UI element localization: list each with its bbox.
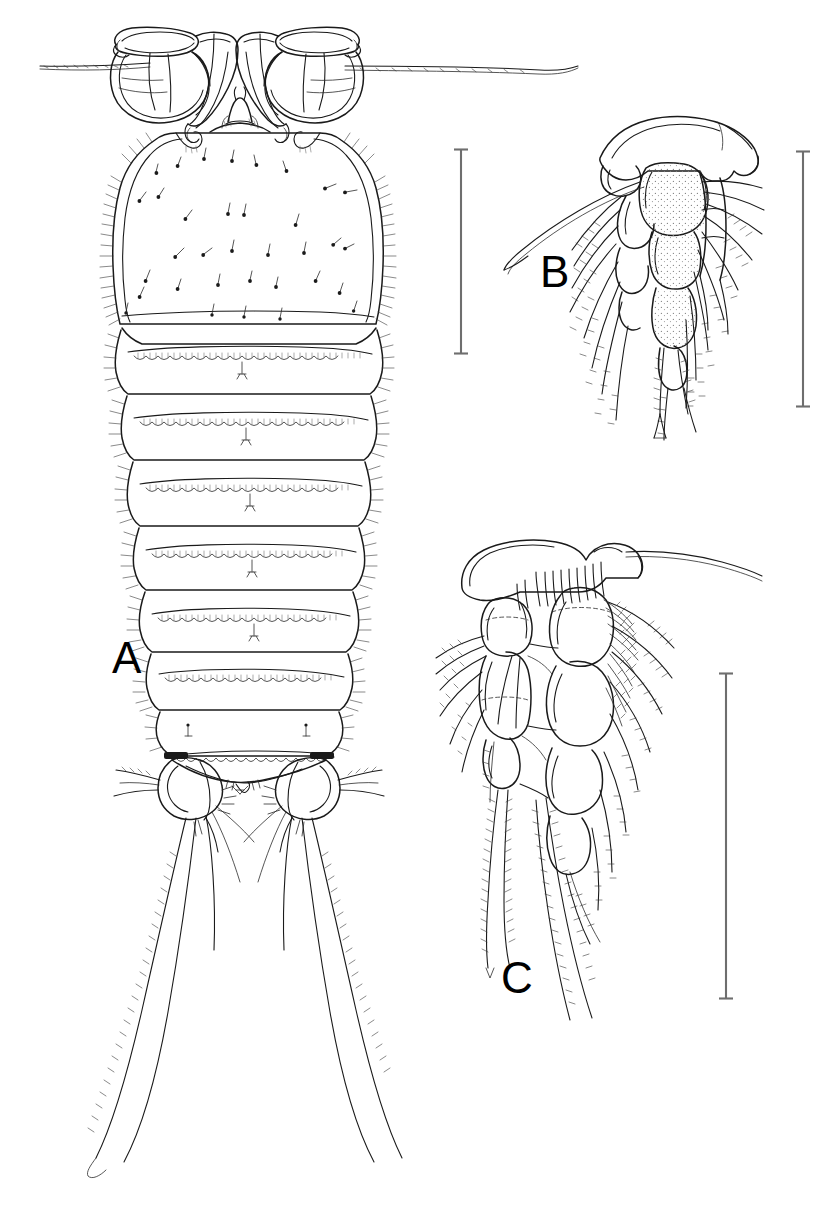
line-drawing-canvas: .o{fill:none;stroke:#1a1a1a;stroke-width…: [0, 0, 833, 1205]
setae-pinnules-left: [570, 222, 618, 424]
somite-1: [104, 328, 394, 394]
panel-label-b: B: [540, 250, 569, 294]
exopod-outer-spines: [592, 602, 674, 910]
scale-bar-panel-a: [454, 150, 468, 354]
scale-bar-panel-c: [719, 674, 733, 999]
panel-a-habitus: [40, 27, 578, 1177]
anal-somite: [172, 760, 326, 794]
panel-label-c: C: [501, 956, 533, 1000]
maxilliped-pair: [185, 32, 289, 142]
cephalothorax: [100, 132, 396, 325]
somite-3: [115, 462, 383, 526]
somite-4: [121, 528, 377, 590]
somite-6: [133, 654, 365, 711]
panel-c-swimming-leg: [436, 540, 762, 1020]
scale-bar-panel-b: [796, 152, 810, 407]
antennule-left: [40, 63, 150, 70]
panel-label-a: A: [112, 636, 141, 680]
caudal-ramus-left: [87, 757, 254, 1177]
antennule-right-segments: [264, 27, 363, 123]
somite-2: [109, 396, 389, 460]
figure-plate: .o{fill:none;stroke:#1a1a1a;stroke-width…: [0, 0, 833, 1205]
clipped-caption: [0, 0, 833, 9]
antennule-left-segments: [111, 27, 210, 123]
caudal-ramus-right: [244, 757, 402, 1162]
antennule-right: [345, 66, 578, 74]
setule-comb: [517, 562, 604, 610]
somite-5: [127, 592, 371, 652]
dorsal-sensilla: [124, 148, 357, 321]
somite-7: [145, 712, 354, 762]
